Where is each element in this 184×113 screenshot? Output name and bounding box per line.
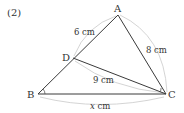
vertex-label-b: B <box>27 89 34 100</box>
vertex-label-d: D <box>62 52 70 63</box>
angle-mark-c <box>160 88 161 92</box>
vertex-label-c: C <box>168 89 176 100</box>
angle-mark-b <box>43 89 45 94</box>
segment-dc <box>73 58 166 94</box>
triangle-diagram: (2) A D B C 6 cm 8 cm 9 cm x cm <box>0 0 184 113</box>
length-dc: 9 cm <box>93 75 114 85</box>
length-bc-unit: cm <box>95 101 111 111</box>
problem-number: (2) <box>7 7 21 18</box>
length-bc: x cm <box>90 101 110 111</box>
vertex-label-a: A <box>113 3 122 14</box>
length-ac: 8 cm <box>146 45 167 55</box>
length-ad: 6 cm <box>74 27 95 37</box>
